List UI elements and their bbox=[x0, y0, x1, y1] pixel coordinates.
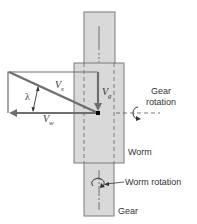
worm-rotation-label: Worm rotation bbox=[125, 177, 181, 187]
vg-label: Vg bbox=[102, 86, 112, 100]
gear-rotation-icon bbox=[133, 107, 141, 121]
contact-point-dot bbox=[96, 111, 100, 115]
worm-gear-diagram bbox=[0, 0, 197, 224]
lambda-label: λ bbox=[25, 91, 30, 102]
vw-arrowhead bbox=[9, 109, 17, 117]
lambda-arrowhead-bottom bbox=[32, 107, 36, 112]
gear-rotation-label-line2: rotation bbox=[146, 97, 176, 107]
gear-rotation-label-line1: Gear bbox=[151, 86, 171, 96]
vs-label: Vs bbox=[55, 79, 64, 93]
vw-label: Vw bbox=[43, 113, 54, 127]
upper-gear-shaft bbox=[84, 12, 115, 64]
worm-label: Worm bbox=[128, 147, 152, 157]
gear-label: Gear bbox=[118, 206, 138, 216]
